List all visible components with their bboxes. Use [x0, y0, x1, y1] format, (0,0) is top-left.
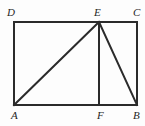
vertex-label-B: B: [133, 110, 140, 121]
vertex-label-E: E: [94, 7, 101, 18]
geometry-canvas: [0, 0, 145, 126]
vertex-label-C: C: [133, 7, 140, 18]
figure-stroke-group: [14, 22, 137, 105]
segment-EB: [99, 22, 137, 105]
vertex-label-A: A: [11, 110, 18, 121]
vertex-label-F: F: [97, 110, 104, 121]
segment-AE: [14, 22, 99, 105]
vertex-label-D: D: [7, 7, 15, 18]
geometry-figure: D E C A F B: [0, 0, 145, 126]
